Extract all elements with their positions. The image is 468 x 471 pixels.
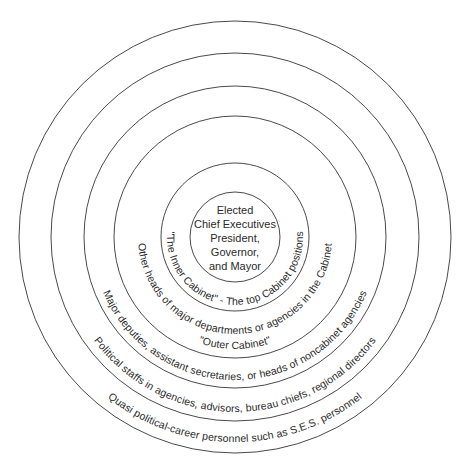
core-line-2: Chief Executives	[194, 218, 276, 230]
concentric-cabinet-diagram: Elected Chief Executives President, Gove…	[0, 0, 468, 471]
core-line-3: President,	[210, 232, 260, 244]
core-line-1: Elected	[217, 204, 254, 216]
core-line-5: and Mayor	[209, 260, 261, 272]
core-line-4: Governor,	[211, 246, 259, 258]
core-label: Elected Chief Executives President, Gove…	[194, 204, 276, 272]
